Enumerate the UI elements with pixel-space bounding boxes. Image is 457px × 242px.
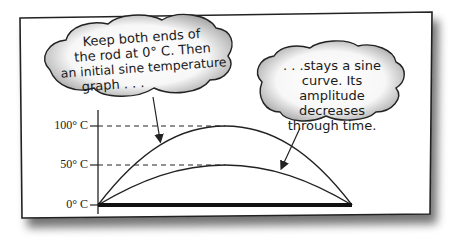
left-bubble-text: Keep both ends of the rod at 0° C. Then … xyxy=(56,24,230,96)
right-bubble-line: curve. Its xyxy=(266,73,398,88)
tick-label-100: 100° C xyxy=(28,118,88,133)
tick-label-50: 50° C xyxy=(28,157,88,172)
diagram-stage: Keep both ends of the rod at 0° C. Then … xyxy=(0,0,457,242)
right-bubble-line: through time. xyxy=(266,118,398,133)
right-bubble-line: . . .stays a sine xyxy=(266,58,398,73)
tick-label-0: 0° C xyxy=(28,197,88,212)
right-bubble-line: amplitude decreases xyxy=(266,88,398,118)
right-bubble-text: . . .stays a sine curve. Its amplitude d… xyxy=(266,58,398,133)
